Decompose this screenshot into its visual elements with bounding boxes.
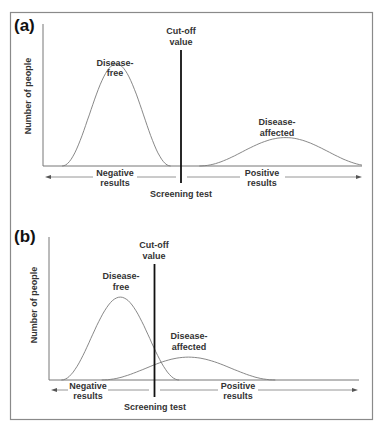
panel-b-disease-affected-label-line1: Disease-	[170, 331, 207, 341]
panel-b-x-axis-label: Screening test	[124, 402, 186, 412]
panel-a-y-axis-label: Number of people	[23, 58, 33, 135]
screening-test-figure: (a) Number of people Disease- free Disea…	[0, 0, 379, 422]
panel-b-disease-free-label-line2: free	[113, 282, 130, 292]
panel-b-cutoff-label-line2: value	[142, 251, 165, 261]
panel-b-disease-affected-label-line2: affected	[172, 342, 207, 352]
panel-b-y-axis-label: Number of people	[29, 267, 39, 344]
panel-b-negative-label-line2: results	[73, 391, 103, 401]
panel-a-cutoff-label-line1: Cut-off	[166, 26, 196, 36]
panel-b-negative-label-line1: Negative	[69, 381, 107, 391]
panel-a-disease-affected-label-line2: affected	[260, 128, 295, 138]
panel-a-x-axis-label: Screening test	[150, 189, 212, 199]
panel-b-cutoff-label-line1: Cut-off	[139, 240, 169, 250]
panel-b-positive-label-line1: Positive	[221, 381, 256, 391]
panel-b-positive-label-line2: results	[223, 391, 253, 401]
panel-a-positive-label-line2: results	[247, 178, 277, 188]
panel-a-negative-label-line1: Negative	[96, 168, 134, 178]
panel-a-disease-free-label-line1: Disease-	[96, 58, 133, 68]
panel-a-label: (a)	[14, 16, 35, 35]
panel-a-negative-label-line2: results	[100, 178, 130, 188]
figure-frame	[11, 13, 373, 420]
panel-a-cutoff-label-line2: value	[169, 37, 192, 47]
panel-a-disease-free-label-line2: free	[107, 68, 124, 78]
panel-a-disease-affected-label-line1: Disease-	[258, 117, 295, 127]
panel-b-disease-free-label-line1: Disease-	[102, 271, 139, 281]
panel-a-positive-label-line1: Positive	[245, 168, 280, 178]
panel-b-label: (b)	[14, 227, 36, 246]
